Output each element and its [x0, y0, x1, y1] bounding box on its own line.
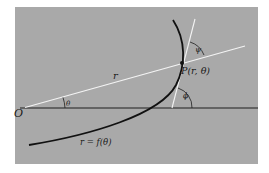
phi-label: ϕ — [183, 91, 189, 100]
psi-label: ψ — [195, 45, 202, 54]
polar-curve-diagram: O r θ P(r, θ) ψ ϕ r = f(θ) — [0, 0, 269, 173]
curve-equation-label: r = f(θ) — [80, 137, 112, 147]
point-p-label: P(r, θ) — [180, 65, 210, 76]
origin-label: O — [14, 107, 23, 120]
